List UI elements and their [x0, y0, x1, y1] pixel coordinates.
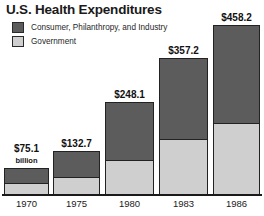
plot-area: $75.1billion$132.7$248.1$357.2$458.2 — [0, 0, 264, 195]
bar-segment-consumer-1980 — [106, 103, 153, 161]
bar-segment-government-1970 — [5, 184, 48, 194]
bar-segment-consumer-1986 — [214, 26, 259, 124]
bar-segment-consumer-1975 — [54, 152, 99, 178]
x-axis-tick-labels: 19701975198019831986 — [0, 198, 264, 214]
x-tick-1970: 1970 — [0, 198, 54, 209]
bar-segment-government-1986 — [214, 124, 259, 194]
bar-segment-government-1983 — [160, 140, 207, 194]
bar-segment-consumer-1970 — [5, 169, 48, 184]
bar-value-label-1983: $357.2 — [153, 45, 214, 56]
bar-value-label-1975: $132.7 — [47, 138, 106, 149]
bar-value-label-1986: $458.2 — [207, 12, 264, 23]
x-tick-1986: 1986 — [208, 198, 264, 209]
bar-segment-government-1975 — [54, 178, 99, 194]
bar-unit-label-1970: billion — [0, 156, 55, 165]
x-tick-1983: 1983 — [154, 198, 213, 209]
bar-1980 — [105, 102, 154, 194]
x-tick-1975: 1975 — [48, 198, 105, 209]
bar-1983 — [159, 58, 208, 194]
bar-segment-government-1980 — [106, 161, 153, 194]
bar-1986 — [213, 25, 260, 194]
x-axis-line — [2, 194, 262, 196]
bar-1975 — [53, 151, 100, 194]
bar-value-label-1980: $248.1 — [99, 89, 160, 100]
bar-1970 — [4, 168, 49, 194]
health-expenditures-chart: U.S. Health Expenditures Consumer, Phila… — [0, 0, 264, 216]
x-tick-1980: 1980 — [100, 198, 159, 209]
bar-segment-consumer-1983 — [160, 59, 207, 140]
